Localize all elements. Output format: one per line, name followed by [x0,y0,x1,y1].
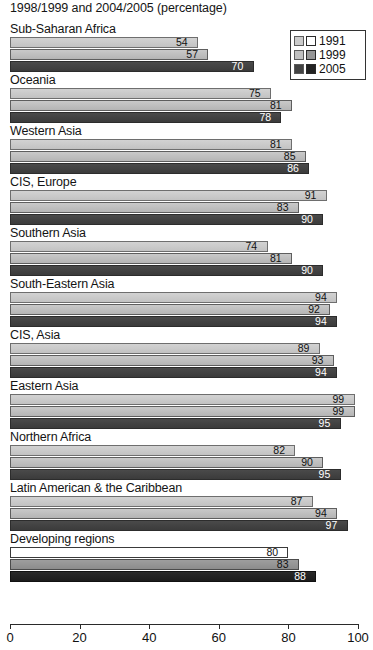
bar-row: 81 [0,253,373,264]
bar-1999 [10,202,299,213]
bar-group-label: Sub-Saharan Africa [0,22,373,37]
bar-value-label: 90 [301,213,313,225]
bar-2005 [10,163,309,174]
bar-group: Northern Africa829095 [0,430,373,480]
x-axis-line [10,624,359,625]
bar-row: 94 [0,316,373,327]
bar-2005 [10,367,337,378]
bar-group: Eastern Asia999995 [0,379,373,429]
bar-1991 [10,88,271,99]
bar-row: 87 [0,496,373,507]
bar-row: 99 [0,406,373,417]
x-axis-tick-label: 40 [142,630,156,645]
bar-value-label: 94 [315,507,327,519]
bar-2005 [10,571,316,582]
bar-1991 [10,37,198,48]
bar-group: Sub-Saharan Africa545770 [0,22,373,72]
bar-row: 91 [0,190,373,201]
bar-value-label: 74 [246,240,258,252]
bar-1991 [10,496,313,507]
bar-1991 [10,547,288,558]
bar-value-label: 81 [270,252,282,264]
bar-1999 [10,49,208,60]
bar-group: Developing regions808388 [0,532,373,582]
bar-value-label: 88 [294,570,306,582]
bar-1991 [10,445,295,456]
bar-1999 [10,253,292,264]
bar-2005 [10,214,323,225]
x-axis-tick-label: 0 [6,630,13,645]
bar-row: 90 [0,457,373,468]
bar-group-label: CIS, Asia [0,328,373,343]
bar-value-label: 81 [270,138,282,150]
bar-value-label: 85 [284,150,296,162]
bar-value-label: 82 [273,444,285,456]
bar-row: 88 [0,571,373,582]
bar-value-label: 95 [319,417,331,429]
bar-value-label: 70 [232,60,244,72]
bar-value-label: 83 [277,201,289,213]
bar-chart: 1998/1999 and 2004/2005 (percentage) 199… [0,0,373,650]
chart-title: 1998/1999 and 2004/2005 (percentage) [10,1,227,15]
bar-row: 94 [0,367,373,378]
x-axis-tick [80,624,81,629]
bar-row: 99 [0,394,373,405]
x-axis-tick [10,624,11,629]
bar-row: 86 [0,163,373,174]
x-axis-tick [358,624,359,629]
bar-2005 [10,112,281,123]
bar-row: 75 [0,88,373,99]
bar-group: CIS, Asia899394 [0,328,373,378]
bar-group-label: South-Eastern Asia [0,277,373,292]
bar-1999 [10,508,337,519]
bar-value-label: 87 [291,495,303,507]
bar-row: 78 [0,112,373,123]
bar-group-label: Western Asia [0,124,373,139]
bar-row: 92 [0,304,373,315]
bar-row: 89 [0,343,373,354]
bar-row: 74 [0,241,373,252]
bar-value-label: 97 [326,519,338,531]
bar-group-label: Eastern Asia [0,379,373,394]
bar-1999 [10,559,299,570]
bar-value-label: 83 [277,558,289,570]
bar-value-label: 93 [312,354,324,366]
bar-value-label: 78 [259,111,271,123]
x-axis: 020406080100 [0,624,373,650]
bar-row: 97 [0,520,373,531]
bar-1999 [10,151,306,162]
bar-row: 83 [0,559,373,570]
bar-group: Western Asia818586 [0,124,373,174]
bar-value-label: 81 [270,99,282,111]
bar-row: 90 [0,265,373,276]
bar-value-label: 86 [287,162,299,174]
x-axis-tick-label: 80 [281,630,295,645]
bar-row: 80 [0,547,373,558]
bar-value-label: 99 [333,393,345,405]
bar-group: South-Eastern Asia949294 [0,277,373,327]
bar-row: 81 [0,139,373,150]
bar-2005 [10,61,254,72]
bar-row: 85 [0,151,373,162]
bar-group-label: Oceania [0,73,373,88]
bar-1991 [10,139,292,150]
bar-2005 [10,265,323,276]
bar-1999 [10,457,323,468]
bar-row: 70 [0,61,373,72]
bar-row: 94 [0,292,373,303]
bar-row: 81 [0,100,373,111]
bar-2005 [10,418,341,429]
bar-1999 [10,100,292,111]
bar-group: Oceania758178 [0,73,373,123]
bar-row: 94 [0,508,373,519]
x-axis-tick-label: 100 [347,630,369,645]
bar-value-label: 99 [333,405,345,417]
bar-row: 95 [0,418,373,429]
bar-2005 [10,316,337,327]
bar-1999 [10,355,334,366]
bar-2005 [10,520,348,531]
bar-value-label: 54 [176,36,188,48]
bar-value-label: 94 [315,315,327,327]
bar-group: Latin American & the Caribbean879497 [0,481,373,531]
bar-row: 82 [0,445,373,456]
